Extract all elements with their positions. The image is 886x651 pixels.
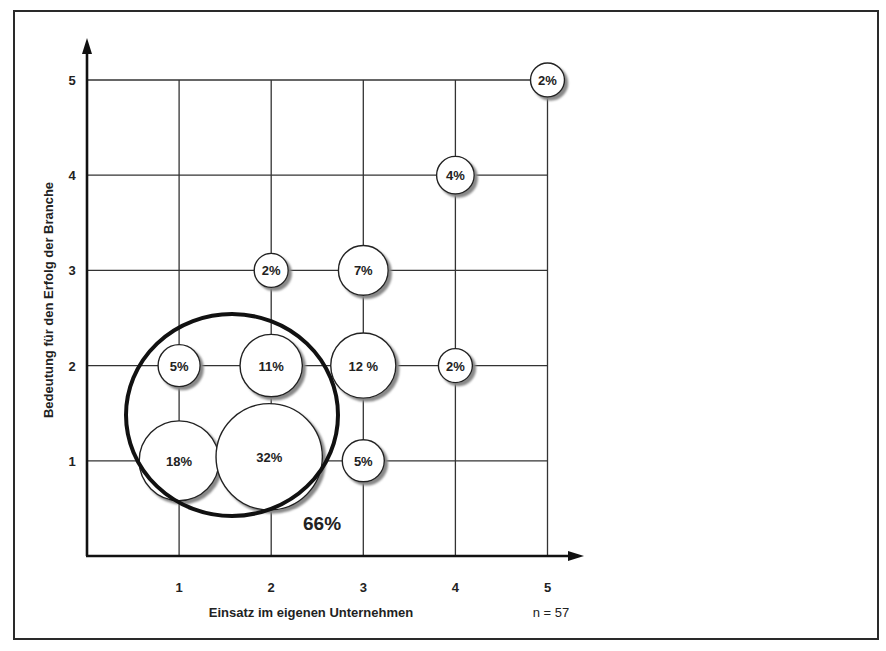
bubble-label: 2%: [262, 263, 281, 278]
bubble: 11%: [240, 334, 302, 396]
y-tick-label: 4: [68, 168, 76, 183]
bubble: 2%: [438, 349, 472, 383]
group-percentage-label: 66%: [303, 513, 341, 534]
bubble: 18%: [139, 421, 219, 501]
bubble-label: 4%: [446, 168, 465, 183]
y-tick-label: 1: [68, 454, 75, 469]
x-tick-labels: 12345: [175, 580, 551, 595]
bubble-label: 2%: [538, 73, 557, 88]
x-tick-label: 4: [452, 580, 460, 595]
bubble-label: 18%: [166, 454, 192, 469]
bubble: 32%: [216, 404, 322, 510]
x-axis-label: Einsatz im eigenen Unternehmen: [209, 605, 413, 620]
y-tick-label: 5: [68, 73, 75, 88]
y-axis-arrow-icon: [82, 38, 92, 54]
x-tick-label: 5: [544, 580, 551, 595]
x-axis-arrow-icon: [568, 551, 584, 561]
bubble-label: 2%: [446, 359, 465, 374]
bubble-label: 11%: [259, 359, 285, 374]
bubble: 5%: [158, 345, 200, 387]
bubble: 2%: [254, 253, 288, 287]
sample-size-note: n = 57: [533, 605, 570, 620]
y-axis-label: Bedeutung für den Erfolg der Branche: [41, 182, 56, 418]
x-tick-label: 2: [268, 580, 275, 595]
x-tick-label: 1: [175, 580, 182, 595]
bubble: 7%: [338, 246, 388, 296]
bubble-chart: 12345 12345 18%32%5%5%11%12 %2%2%7%4%2% …: [0, 0, 886, 651]
bubble-label: 5%: [354, 454, 373, 469]
bubble-label: 7%: [354, 263, 373, 278]
bubble-label: 5%: [170, 359, 189, 374]
bubbles: 18%32%5%5%11%12 %2%2%7%4%2%: [139, 63, 564, 510]
bubble-label: 12 %: [348, 359, 378, 374]
bubble: 5%: [342, 440, 384, 482]
y-tick-labels: 12345: [68, 73, 76, 469]
bubble: 4%: [437, 156, 475, 194]
y-tick-label: 3: [68, 263, 75, 278]
y-tick-label: 2: [68, 359, 75, 374]
bubble-label: 32%: [256, 450, 282, 465]
x-tick-label: 3: [360, 580, 367, 595]
bubble: 12 %: [331, 333, 396, 398]
bubble: 2%: [531, 63, 565, 97]
